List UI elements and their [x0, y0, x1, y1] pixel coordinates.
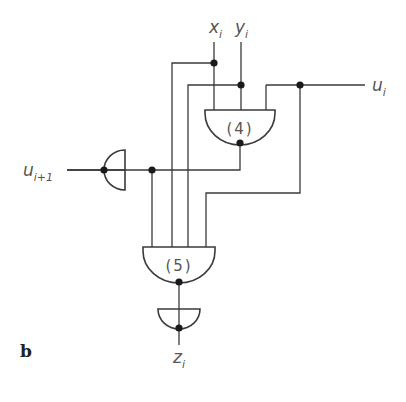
label-y: yi	[234, 17, 248, 41]
junction-u-in	[148, 166, 155, 173]
label-x: xi	[208, 17, 222, 41]
panel-label: b	[20, 341, 32, 361]
gate-5-label: (5)	[165, 257, 192, 275]
junction-inverter-left	[100, 166, 107, 173]
x-branch-wire	[172, 63, 214, 247]
gate-5: (5)	[143, 247, 215, 283]
junction-x	[210, 59, 217, 66]
gate-4-label: (4)	[226, 120, 253, 138]
label-z: zi	[172, 347, 185, 371]
junction-y	[237, 81, 244, 88]
label-u-out: ui	[372, 75, 386, 99]
junction-u-out	[296, 81, 303, 88]
junction-inverter-bottom	[175, 324, 182, 331]
inverter-left	[67, 150, 125, 190]
u-out-wire	[266, 85, 365, 110]
label-u-in: ui+1	[23, 160, 53, 184]
gate4-output-wire	[67, 143, 240, 170]
circuit-diagram: (4) (5) xi yi ui ui+1 zi b	[0, 0, 406, 402]
junction-gate5-out	[175, 278, 182, 285]
junction-gate4-out	[236, 139, 243, 146]
